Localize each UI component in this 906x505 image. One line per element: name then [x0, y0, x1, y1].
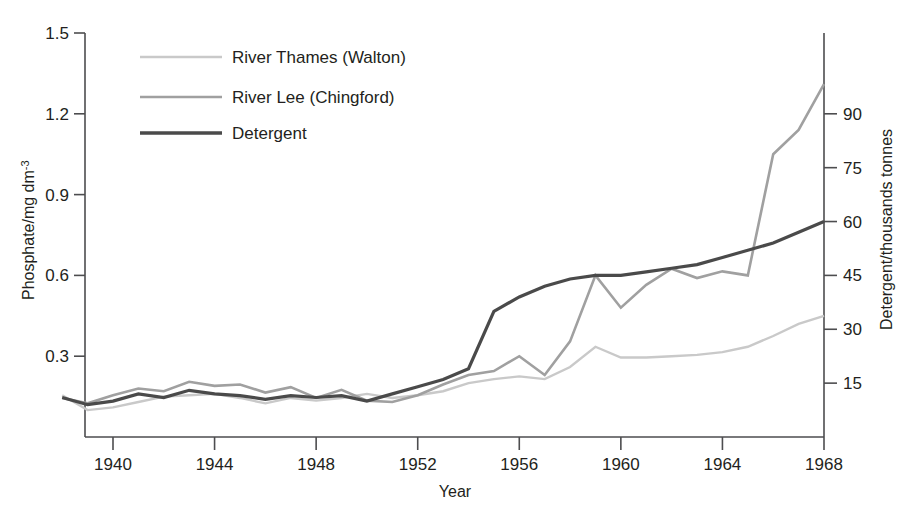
x-tick-label: 1940 [94, 455, 132, 474]
y2-tick-label: 15 [843, 374, 862, 393]
x-tick-label: 1952 [399, 455, 437, 474]
y2-tick-label: 30 [843, 320, 862, 339]
phosphate-detergent-line-chart: 0.30.60.91.21.5 153045607590 19401944194… [0, 0, 906, 505]
y2-tick-label: 75 [843, 159, 862, 178]
legend-label-0: River Thames (Walton) [232, 48, 406, 67]
chart-container: 0.30.60.91.21.5 153045607590 19401944194… [0, 0, 906, 505]
x-tick-label: 1948 [297, 455, 335, 474]
y-tick-label: 0.6 [45, 266, 69, 285]
y-tick-label: 0.3 [45, 347, 69, 366]
y-tick-label: 0.9 [45, 186, 69, 205]
series-line-river-thames-walton [62, 316, 824, 410]
x-tick-label: 1944 [196, 455, 234, 474]
x-tick-label: 1964 [704, 455, 742, 474]
y-axis-right-title: Detergent/thousands tonnes [878, 129, 895, 330]
legend-label-2: Detergent [232, 124, 307, 143]
y-axis-left-ticks: 0.30.60.91.21.5 [45, 24, 85, 366]
y-axis-left-title: Phosphate/mg dm-3 [19, 160, 37, 300]
y-tick-label: 1.2 [45, 105, 69, 124]
x-tick-label: 1960 [602, 455, 640, 474]
x-axis-title: Year [439, 483, 472, 500]
axis-titles: Phosphate/mg dm-3 Detergent/thousands to… [19, 129, 895, 500]
series-line-detergent [62, 222, 824, 405]
x-tick-label: 1968 [805, 455, 843, 474]
y2-tick-label: 60 [843, 213, 862, 232]
x-tick-label: 1956 [500, 455, 538, 474]
x-axis-ticks: 19401944194819521956196019641968 [94, 437, 843, 474]
y-axis-right-ticks: 153045607590 [824, 105, 862, 393]
y-tick-label: 1.5 [45, 24, 69, 43]
legend-label-1: River Lee (Chingford) [232, 88, 395, 107]
chart-legend: River Thames (Walton)River Lee (Chingfor… [140, 48, 406, 143]
y2-tick-label: 90 [843, 105, 862, 124]
y2-tick-label: 45 [843, 266, 862, 285]
